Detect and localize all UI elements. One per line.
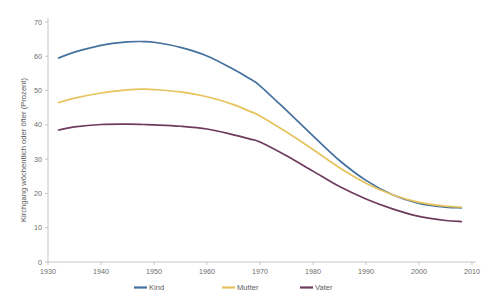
y-tick-label: 60 bbox=[34, 52, 42, 61]
legend-label-vater: Vater bbox=[315, 283, 333, 292]
y-tick-group: 010203040506070 bbox=[34, 18, 48, 267]
x-tick-label: 1990 bbox=[358, 267, 374, 276]
x-tick-label: 1960 bbox=[199, 267, 215, 276]
series-line-mutter bbox=[59, 89, 462, 207]
y-tick-label: 70 bbox=[34, 18, 42, 27]
x-tick-label: 1970 bbox=[252, 267, 268, 276]
legend-item-vater[interactable]: Vater bbox=[300, 283, 333, 292]
x-tick-label: 2000 bbox=[411, 267, 427, 276]
x-tick-group: 193019401950196019701980199020002010 bbox=[40, 262, 480, 276]
y-axis-label: Kirchgang wöchentlich oder öfter (Prozen… bbox=[19, 78, 28, 222]
legend-label-mutter: Mutter bbox=[237, 283, 259, 292]
y-tick-label: 30 bbox=[34, 155, 42, 164]
y-tick-label: 50 bbox=[34, 86, 42, 95]
y-tick-label: 40 bbox=[34, 120, 42, 129]
axis-lines bbox=[48, 18, 476, 262]
x-tick-label: 1950 bbox=[146, 267, 162, 276]
legend-label-kind: Kind bbox=[149, 283, 164, 292]
y-tick-label: 10 bbox=[34, 223, 42, 232]
y-tick-label: 0 bbox=[38, 258, 42, 267]
x-tick-label: 1940 bbox=[93, 267, 109, 276]
x-tick-label: 2010 bbox=[464, 267, 480, 276]
legend-group: KindMutterVater bbox=[134, 283, 333, 292]
x-tick-label: 1980 bbox=[305, 267, 321, 276]
series-line-vater bbox=[59, 124, 462, 221]
legend-item-kind[interactable]: Kind bbox=[134, 283, 164, 292]
chart-container: Kirchgang wöchentlich oder öfter (Prozen… bbox=[0, 0, 491, 306]
axes-group bbox=[48, 18, 476, 262]
y-tick-label: 20 bbox=[34, 189, 42, 198]
series-group bbox=[59, 41, 462, 221]
line-chart: Kirchgang wöchentlich oder öfter (Prozen… bbox=[0, 0, 491, 306]
x-tick-label: 1930 bbox=[40, 267, 56, 276]
y-axis-label-group: Kirchgang wöchentlich oder öfter (Prozen… bbox=[19, 78, 28, 222]
legend-item-mutter[interactable]: Mutter bbox=[222, 283, 259, 292]
